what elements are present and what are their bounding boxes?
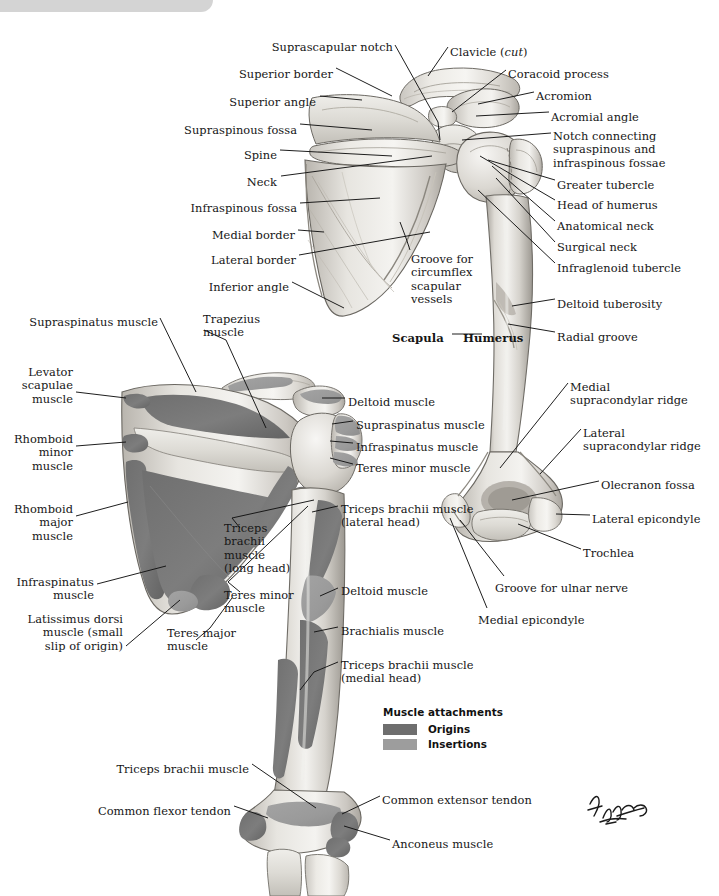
label-common-extensor-tendon: Common extensor tendon <box>382 794 532 807</box>
label-neck: Neck <box>247 176 277 189</box>
label-triceps-brachii-muscle-bottom: Triceps brachii muscle <box>116 763 249 776</box>
label-latissimus-dorsi-muscle: Latissimus dorsi muscle (small slip of o… <box>28 613 123 653</box>
label-rhomboid-major-muscle: Rhomboid major muscle <box>14 503 73 543</box>
label-inferior-angle: Inferior angle <box>209 281 289 294</box>
label-radial-groove: Radial groove <box>557 331 638 344</box>
plate-header-bar <box>0 0 213 12</box>
label-suprascapular-notch: Suprascapular notch <box>272 41 393 54</box>
label-triceps-lateral-head: Triceps brachii muscle (lateral head) <box>341 503 474 530</box>
legend-item-origins: Origins <box>383 723 533 735</box>
label-deltoid-tuberosity: Deltoid tuberosity <box>557 298 662 311</box>
label-lateral-epicondyle: Lateral epicondyle <box>592 513 700 526</box>
label-groove-circumflex: Groove for circumflex scapular vessels <box>411 253 473 307</box>
legend: Muscle attachments Origins Insertions <box>383 706 533 753</box>
label-medial-supracondylar: Medial supracondylar ridge <box>570 381 688 408</box>
label-olecranon-fossa: Olecranon fossa <box>601 479 695 492</box>
label-teres-minor-muscle-right: Teres minor muscle <box>356 462 470 475</box>
label-superior-border: Superior border <box>239 68 333 81</box>
label-trochlea: Trochlea <box>583 547 634 560</box>
label-coracoid-process: Coracoid process <box>508 68 609 81</box>
label-lateral-border: Lateral border <box>211 254 296 267</box>
label-rhomboid-minor-muscle: Rhomboid minor muscle <box>14 433 73 473</box>
label-humerus: Humerus <box>463 332 523 345</box>
legend-label-insertions: Insertions <box>428 738 487 750</box>
label-superior-angle: Superior angle <box>229 96 316 109</box>
label-teres-minor-muscle-left: Teres minor muscle <box>224 589 294 616</box>
label-supraspinous-fossa: Supraspinous fossa <box>184 124 297 137</box>
label-scapula: Scapula <box>392 332 444 345</box>
label-spine: Spine <box>244 149 277 162</box>
label-surgical-neck: Surgical neck <box>557 241 637 254</box>
label-triceps-long-head: Triceps brachii muscle (long head) <box>224 522 290 576</box>
label-anconeus-muscle: Anconeus muscle <box>392 838 493 851</box>
legend-title: Muscle attachments <box>383 706 533 718</box>
label-acromial-angle: Acromial angle <box>551 111 639 124</box>
label-teres-major-muscle: Teres major muscle <box>167 627 236 654</box>
label-medial-epicondyle: Medial epicondyle <box>478 614 585 627</box>
label-anatomical-neck: Anatomical neck <box>557 220 654 233</box>
label-greater-tubercle: Greater tubercle <box>557 179 654 192</box>
label-infraglenoid-tubercle: Infraglenoid tubercle <box>557 262 681 275</box>
label-acromion: Acromion <box>536 90 592 103</box>
label-supraspinatus-muscle-left: Supraspinatus muscle <box>29 316 158 329</box>
label-head-of-humerus: Head of humerus <box>557 199 658 212</box>
label-groove-ulnar-nerve: Groove for ulnar nerve <box>495 582 628 595</box>
legend-item-insertions: Insertions <box>383 738 533 750</box>
label-notch-connecting: Notch connecting supraspinous and infras… <box>553 130 665 170</box>
legend-swatch-insertions <box>383 739 417 750</box>
label-infraspinatus-muscle-right: Infraspinatus muscle <box>356 441 478 454</box>
anatomical-plate-page: SEE ALSO PLATE 400 Muscle attachments Or… <box>0 0 719 896</box>
label-supraspinatus-muscle-right: Supraspinatus muscle <box>356 419 485 432</box>
label-clavicle-cut: Clavicle (cut) <box>450 46 528 59</box>
legend-swatch-origins <box>383 724 417 735</box>
artist-signature <box>586 788 658 828</box>
legend-label-origins: Origins <box>428 723 470 735</box>
label-medial-border: Medial border <box>212 229 295 242</box>
label-common-flexor-tendon: Common flexor tendon <box>98 805 231 818</box>
label-infraspinous-fossa: Infraspinous fossa <box>190 202 297 215</box>
label-lateral-supracondylar: Lateral supracondylar ridge <box>583 427 701 454</box>
label-trapezius-muscle: Trapezius muscle <box>203 313 260 340</box>
label-deltoid-muscle-top: Deltoid muscle <box>348 396 435 409</box>
label-brachialis-muscle: Brachialis muscle <box>341 625 444 638</box>
label-levator-scapulae-muscle: Levator scapulae muscle <box>22 366 73 406</box>
label-triceps-medial-head: Triceps brachii muscle (medial head) <box>341 659 474 686</box>
label-deltoid-muscle-lower: Deltoid muscle <box>341 585 428 598</box>
label-infraspinatus-muscle-left: Infraspinatus muscle <box>16 576 94 603</box>
